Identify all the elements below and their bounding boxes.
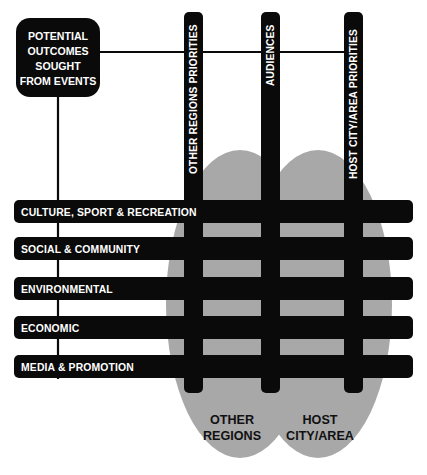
horizontal-bar-label-environmental: ENVIRONMENTAL (21, 284, 113, 295)
horizontal-bar-label-economic: ECONOMIC (21, 323, 80, 334)
horizontal-bar-label-social-community: SOCIAL & COMMUNITY (21, 244, 140, 255)
potential-outcomes-line-2: OUTCOMES (27, 45, 88, 57)
region-label-other-line-2: REGIONS (203, 429, 261, 443)
region-label-host-line-2: CITY/AREA (286, 429, 354, 443)
potential-outcomes-box[interactable]: POTENTIAL OUTCOMES SOUGHT FROM EVENTS (16, 18, 100, 97)
region-label-host-line-1: HOST (303, 413, 338, 427)
diagram-canvas: CULTURE, SPORT & RECREATION SOCIAL & COM… (0, 0, 427, 475)
potential-outcomes-line-4: FROM EVENTS (20, 75, 97, 87)
horizontal-bar-label-culture-sport-recreation: CULTURE, SPORT & RECREATION (21, 207, 197, 218)
region-label-other-line-1: OTHER (210, 413, 254, 427)
horizontal-bar-label-media-promotion: MEDIA & PROMOTION (21, 362, 134, 373)
outcomes-matrix-diagram: CULTURE, SPORT & RECREATION SOCIAL & COM… (0, 0, 427, 475)
vertical-bar-label-host-city-area-priorities: HOST CITY/AREA PRIORITIES (348, 29, 359, 179)
potential-outcomes-line-1: POTENTIAL (28, 30, 89, 42)
vertical-bar-label-audiences: AUDIENCES (265, 25, 276, 86)
potential-outcomes-line-3: SOUGHT (35, 60, 81, 72)
vertical-bar-label-other-regions-priorities: OTHER REGIONS PRIORITIES (188, 24, 199, 174)
